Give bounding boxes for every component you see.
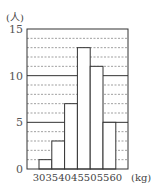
histogram-bar [90,66,103,169]
x-axis-label: (kg) [131,172,151,183]
histogram-bar [103,122,116,169]
y-tick-label: 10 [9,70,23,83]
bars [39,48,116,169]
y-tick-label: 15 [9,23,23,36]
histogram-chart: 051015 30354045505560 (人) (kg) [0,0,156,188]
histogram-bar [39,160,52,169]
x-tick-label: 60 [109,172,122,183]
x-tick-label: 55 [97,172,110,183]
x-tick-label: 30 [33,172,46,183]
x-tick-label: 45 [71,172,84,183]
histogram-bar [52,141,65,169]
histogram-bar [77,48,90,169]
histogram-bar [65,104,78,169]
x-tick-label: 35 [45,172,58,183]
y-tick-label: 5 [16,116,23,129]
y-axis-label: (人) [6,12,24,23]
x-tick-label: 50 [84,172,97,183]
y-axis-ticks: 051015 [9,23,23,176]
x-tick-label: 40 [58,172,71,183]
y-tick-label: 0 [16,163,23,176]
x-axis-ticks: 30354045505560 [33,172,123,183]
